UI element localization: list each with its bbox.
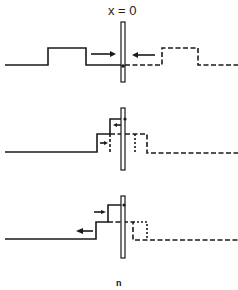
arrow-right-icon [91,51,116,57]
barrier-pole [121,108,125,170]
arrow-left-icon [132,52,155,58]
arrow-left-icon [76,228,93,234]
panel-1 [5,22,238,82]
barrier-pole [121,22,125,82]
panel-2 [5,108,238,170]
solid-pulse-left [5,48,122,65]
dotted-outline [133,222,147,240]
pole-cap-dot [123,117,126,120]
pole-cap-dot [122,203,125,206]
solid-superposed-pulse [5,119,125,152]
dashed-continuation [108,222,238,240]
panel-3 [5,196,238,258]
origin-dot [121,64,125,68]
dashed-pulse-right [125,48,238,65]
dashed-pulse-part [110,134,238,153]
figure-caption: n [116,278,122,288]
arrow-right-icon [94,210,106,214]
wave-pulse-diagram [0,0,238,290]
arrow-right-icon [100,141,108,145]
solid-reflected-pulse [5,205,123,239]
